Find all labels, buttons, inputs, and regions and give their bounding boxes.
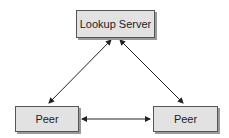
edge-server-peer-left bbox=[49, 40, 111, 103]
node-peer-left: Peer bbox=[15, 106, 79, 132]
node-label: Lookup Server bbox=[80, 18, 152, 30]
node-label: Peer bbox=[35, 113, 58, 125]
node-lookup-server: Lookup Server bbox=[76, 10, 155, 38]
node-peer-right: Peer bbox=[153, 106, 218, 132]
node-label: Peer bbox=[174, 113, 197, 125]
edge-server-peer-right bbox=[120, 40, 183, 103]
